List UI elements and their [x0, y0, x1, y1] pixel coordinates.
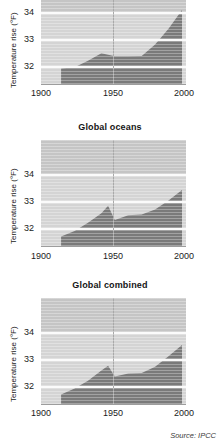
chart-panel-global-combined: Global combined 34 33 32 Temperature ris… [0, 272, 220, 444]
xtick-1900-land: 1900 [21, 88, 61, 98]
chart-title-global-oceans: Global oceans [0, 122, 220, 132]
plot-area-global-land [41, 0, 186, 84]
chart-title-global-combined: Global combined [0, 280, 220, 290]
source-note: Source: IPCC [170, 431, 216, 440]
yaxis-label-combined: Temperature rise (°F) [9, 326, 18, 402]
xaxis-line-oceans [41, 246, 186, 247]
xaxis-line-land [41, 84, 186, 85]
area-polygon [61, 10, 182, 84]
xtick-1900-oceans: 1900 [21, 251, 61, 261]
chart-panel-global-land: 34 33 32 Temperature rise (°F) 1900 1950… [0, 0, 220, 110]
xtick-2000-combined: 2000 [164, 408, 204, 418]
xtick-2000-land: 2000 [164, 88, 204, 98]
area-polygon [61, 345, 182, 404]
chart-panel-global-oceans: Global oceans 34 33 32 Temperature rise … [0, 110, 220, 250]
xaxis-line-combined [41, 404, 186, 405]
climate-temperature-figure: 34 33 32 Temperature rise (°F) 1900 1950… [0, 0, 220, 444]
plot-area-global-oceans [41, 140, 186, 246]
yaxis-label-land: Temperature rise (°F) [9, 12, 18, 88]
gridline-1950 [113, 0, 114, 84]
gridline-1950 [113, 140, 114, 246]
xtick-1950-land: 1950 [93, 88, 133, 98]
area-polygon [61, 190, 182, 246]
xtick-1950-combined: 1950 [93, 408, 133, 418]
xtick-1900-combined: 1900 [21, 408, 61, 418]
yaxis-label-oceans: Temperature rise (°F) [9, 168, 18, 244]
xtick-1950-oceans: 1950 [93, 251, 133, 261]
gridline-1950 [113, 298, 114, 404]
plot-area-global-combined [41, 298, 186, 404]
xtick-2000-oceans: 2000 [164, 251, 204, 261]
